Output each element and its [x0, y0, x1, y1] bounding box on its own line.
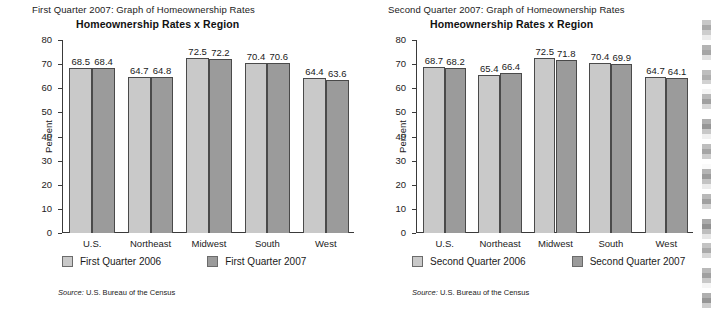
x-axis-category-label: South [598, 239, 623, 249]
bar-value-label: 66.4 [502, 62, 521, 72]
legend-swatch [62, 256, 73, 267]
bar-value-label: 70.6 [270, 52, 289, 62]
x-axis-category-label: Northeast [130, 239, 171, 249]
y-axis-title: Percent [43, 106, 54, 166]
x-axis-category-label: U.S. [435, 239, 453, 249]
y-axis-tick-label: 60 [41, 84, 52, 94]
bar: 71.8 [556, 60, 578, 233]
scanned-page: First Quarter 2007: Graph of Homeownersh… [0, 0, 711, 318]
y-axis-tick: 40 [412, 137, 416, 138]
source-prefix: Source: [58, 288, 84, 297]
bar: 68.2 [445, 68, 467, 233]
y-axis-tick: 80 [58, 40, 62, 41]
bar-value-label: 71.8 [557, 49, 576, 59]
y-axis-tick: 10 [58, 209, 62, 210]
bar: 68.5 [69, 68, 92, 233]
chart-source: Source: U.S. Bureau of the Census [412, 288, 529, 297]
bar-value-label: 68.2 [446, 57, 465, 67]
bar: 64.4 [303, 78, 326, 233]
legend-swatch [572, 256, 583, 267]
bar-group: 72.572.2Midwest [186, 40, 232, 233]
source-text: U.S. Bureau of the Census [86, 288, 175, 297]
bar: 64.8 [151, 77, 174, 233]
bar-group: 68.768.2U.S. [423, 40, 466, 233]
bar-group: 72.571.8Midwest [534, 40, 577, 233]
bar-value-label: 72.5 [535, 47, 554, 57]
bar-value-label: 64.4 [305, 67, 324, 77]
legend-label: First Quarter 2007 [225, 256, 306, 267]
legend-swatch [412, 256, 423, 267]
bar-value-label: 69.9 [612, 53, 631, 63]
source-text: U.S. Bureau of the Census [440, 288, 529, 297]
plot-area-second-quarter: 0102030405060708068.768.2U.S.65.466.4Nor… [416, 40, 693, 233]
legend-label: First Quarter 2006 [80, 256, 161, 267]
scan-artifact-block [702, 313, 711, 318]
bar: 66.4 [500, 73, 522, 233]
y-axis-tick: 10 [412, 209, 416, 210]
source-prefix: Source: [412, 288, 438, 297]
bar: 68.7 [423, 67, 445, 233]
y-axis-tick: 40 [58, 137, 62, 138]
bar: 70.4 [589, 63, 611, 233]
bar-value-label: 70.4 [591, 52, 610, 62]
y-axis-tick: 70 [412, 64, 416, 65]
x-axis-category-label: U.S. [83, 239, 101, 249]
legend-label: Second Quarter 2007 [590, 256, 686, 267]
legend-swatch [207, 256, 218, 267]
y-axis-tick: 0 [58, 233, 62, 234]
bar: 72.2 [209, 59, 232, 233]
legend-label: Second Quarter 2006 [430, 256, 526, 267]
legend-item: First Quarter 2007 [207, 256, 306, 267]
y-axis-tick-label: 70 [395, 59, 406, 69]
bar-value-label: 63.6 [328, 69, 347, 79]
y-axis-tick: 30 [412, 161, 416, 162]
legend-item: Second Quarter 2006 [412, 256, 526, 267]
x-axis-category-label: South [255, 239, 280, 249]
chart-panel-first-quarter: First Quarter 2007: Graph of Homeownersh… [0, 0, 370, 318]
bar-value-label: 68.4 [94, 57, 113, 67]
y-axis-line [62, 40, 63, 233]
bar-group: 64.764.1West [645, 40, 688, 233]
chart-subtitle: Homeownership Rates x Region [76, 18, 239, 30]
bar: 69.9 [611, 64, 633, 233]
bar: 64.7 [645, 77, 667, 233]
bar-value-label: 64.8 [153, 66, 172, 76]
y-axis-tick: 0 [412, 233, 416, 234]
x-axis-category-label: Northeast [479, 239, 520, 249]
bar-value-label: 70.4 [247, 52, 266, 62]
bar: 68.4 [92, 68, 115, 233]
y-axis-tick-label: 70 [41, 59, 52, 69]
bar-value-label: 68.7 [425, 56, 444, 66]
plot-area-first-quarter: 0102030405060708068.568.4U.S.64.764.8Nor… [62, 40, 354, 233]
chart-caption: First Quarter 2007: Graph of Homeownersh… [32, 4, 255, 15]
y-axis-title: Percent [397, 106, 408, 166]
y-axis-tick: 20 [58, 185, 62, 186]
bar-value-label: 72.2 [211, 48, 230, 58]
chart-subtitle: Homeownership Rates x Region [430, 18, 593, 30]
bar: 64.1 [666, 78, 688, 233]
bar-group: 70.469.9South [589, 40, 632, 233]
bar-value-label: 64.1 [668, 67, 687, 77]
bar-value-label: 64.7 [646, 66, 665, 76]
y-axis-tick-label: 20 [41, 180, 52, 190]
legend-item: Second Quarter 2007 [572, 256, 686, 267]
bar: 72.5 [534, 58, 556, 233]
chart-legend-first-quarter: First Quarter 2006First Quarter 2007 [62, 254, 354, 268]
bar: 65.4 [478, 75, 500, 233]
y-axis-tick: 60 [412, 88, 416, 89]
bar-value-label: 65.4 [480, 64, 499, 74]
x-axis-category-label: Midwest [538, 239, 573, 249]
bar-value-label: 64.7 [130, 66, 149, 76]
y-axis-tick: 80 [412, 40, 416, 41]
chart-source: Source: U.S. Bureau of the Census [58, 288, 175, 297]
bar: 64.7 [128, 77, 151, 233]
y-axis-tick: 50 [58, 112, 62, 113]
bar-group: 65.466.4Northeast [478, 40, 521, 233]
y-axis-tick: 70 [58, 64, 62, 65]
y-axis-line [416, 40, 417, 233]
bar: 63.6 [326, 80, 349, 233]
bar-value-label: 72.5 [188, 47, 207, 57]
y-axis-tick-label: 0 [401, 228, 406, 238]
bar-value-label: 68.5 [72, 57, 91, 67]
scan-edge-artifact [702, 0, 711, 318]
